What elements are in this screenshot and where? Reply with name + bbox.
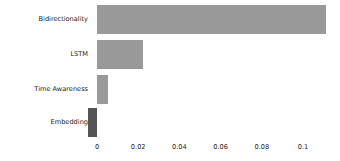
bar-chart: Bidirectionality LSTM Time Awareness Emb… xyxy=(0,0,340,161)
x-tick-label: 0.02 xyxy=(131,144,146,151)
x-tick-label: 0.06 xyxy=(213,144,228,151)
x-tick-label: 0.04 xyxy=(172,144,187,151)
bar-time-awareness xyxy=(97,75,108,104)
x-tick-label: 0.08 xyxy=(254,144,269,151)
bar-row: Time Awareness xyxy=(0,75,340,105)
category-label-bidirectionality: Bidirectionality xyxy=(0,16,88,23)
category-label-lstm: LSTM xyxy=(0,51,88,58)
plot-area: Bidirectionality LSTM Time Awareness Emb… xyxy=(0,0,340,140)
bar-row: Embedding xyxy=(0,108,340,138)
bar-row: LSTM xyxy=(0,40,340,70)
bar-bidirectionality xyxy=(97,5,326,34)
category-label-time-awareness: Time Awareness xyxy=(0,86,88,93)
x-tick-label: 0.1 xyxy=(298,144,309,151)
bar-row: Bidirectionality xyxy=(0,5,340,35)
x-axis: 00.020.040.060.080.1 xyxy=(0,140,340,161)
x-tick-label: 0 xyxy=(95,144,99,151)
category-label-embedding: Embedding xyxy=(0,119,88,126)
bar-lstm xyxy=(97,40,143,69)
bar-embedding xyxy=(88,108,97,137)
